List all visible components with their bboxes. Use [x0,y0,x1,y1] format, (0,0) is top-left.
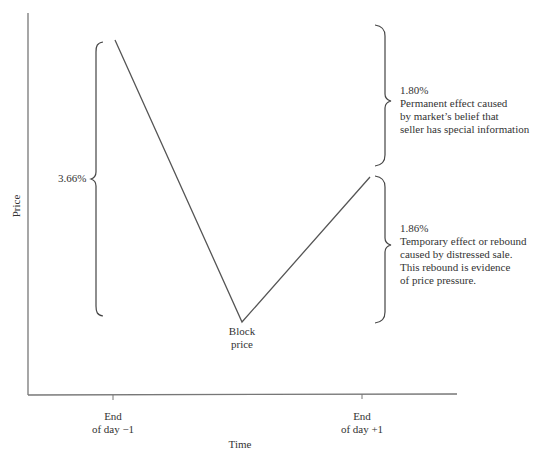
x-tick-label-right: End of day +1 [332,410,392,436]
temporary-effect-line2: caused by distressed sale. [400,248,526,261]
x-axis-label: Time [218,438,262,451]
temporary-effect-line1: Temporary effect or rebound [400,235,526,248]
x-tick-left-line1: End [83,410,143,423]
total-drop-label: 3.66% [58,172,86,185]
price-line [115,40,370,322]
right-upper-brace [375,25,391,166]
block-price-line2: price [220,338,264,351]
block-price-label: Block price [220,325,264,351]
block-price-line1: Block [220,325,264,338]
x-tick-right-line1: End [332,410,392,423]
temporary-effect-value: 1.86% [400,222,526,235]
permanent-effect-line1: Permanent effect caused [400,97,529,110]
x-axis [28,394,457,395]
y-axis-label: Price [10,192,22,220]
temporary-effect-annotation: 1.86% Temporary effect or rebound caused… [400,222,526,287]
temporary-effect-line3: This rebound is evidence [400,261,526,274]
permanent-effect-line2: by market’s belief that [400,110,529,123]
temporary-effect-line4: of price pressure. [400,274,526,287]
x-tick-right-line2: of day +1 [332,423,392,436]
left-brace [91,42,103,316]
x-tick-label-left: End of day −1 [83,410,143,436]
x-tick-left-line2: of day −1 [83,423,143,436]
right-lower-brace [375,176,391,323]
permanent-effect-line3: seller has special information [400,123,529,136]
permanent-effect-annotation: 1.80% Permanent effect caused by market’… [400,84,529,136]
permanent-effect-value: 1.80% [400,84,529,97]
